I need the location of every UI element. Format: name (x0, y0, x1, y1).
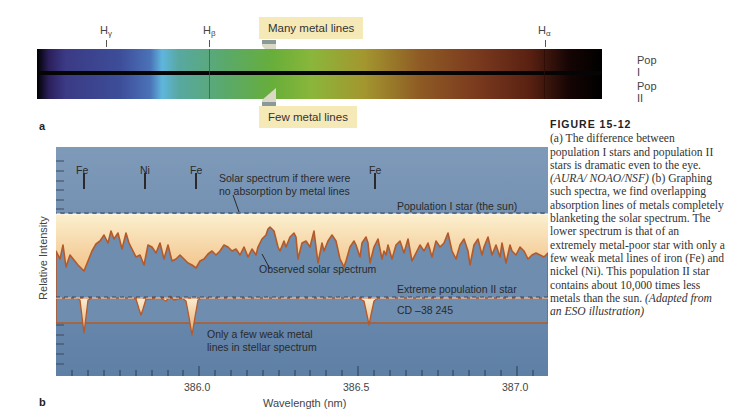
pop-i-label: Pop I (637, 54, 657, 78)
h-gamma-sub: γ (108, 29, 112, 38)
callout-bottom-pointer-icon (261, 86, 277, 108)
element-label-fe-2: Fe (190, 164, 202, 176)
callout-many-metal-lines: Many metal lines (259, 17, 363, 39)
x-tick-label-386-5: 386.5 (343, 381, 369, 393)
h-alpha-letter: H (538, 24, 546, 36)
caption-a-credit: (AURA/ NOAO/NSF) (550, 172, 649, 185)
annotation-few-lines-1: Only a few weak metal (207, 328, 317, 341)
element-label-ni: Ni (140, 164, 150, 176)
annotation-observed: Observed solar spectrum (259, 263, 376, 276)
annotation-pop2-id: CD –38 245 (397, 304, 453, 317)
panel-b-letter: b (39, 396, 46, 408)
annotation-continuum: Solar spectrum if there were no absorpti… (219, 172, 350, 197)
annotation-few-lines: Only a few weak metal lines in stellar s… (207, 328, 317, 353)
x-axis-ticks (72, 366, 533, 376)
caption-a-text: (a) The difference between population I … (550, 132, 713, 172)
panel-a-letter: a (39, 120, 45, 132)
element-label-fe-3: Fe (369, 164, 381, 176)
h-alpha-tick (545, 40, 546, 47)
x-tick-label-386-0: 386.0 (184, 381, 210, 393)
x-tick-label-387-0: 387.0 (502, 381, 528, 393)
h-beta-sub: β (211, 29, 216, 38)
caption-b-text: (b) Graphing such spectra, we find overl… (550, 172, 725, 305)
continuum-leader (233, 195, 239, 212)
annotation-continuum-line1: Solar spectrum if there were (219, 172, 350, 185)
y-axis-title: Relative Intensity (37, 203, 49, 313)
annotation-continuum-line2: no absorption by metal lines (219, 185, 350, 198)
h-gamma-letter: H (100, 24, 108, 36)
h-beta-letter: H (203, 24, 211, 36)
h-beta-tick (209, 40, 210, 47)
annotation-few-lines-2: lines in stellar spectrum (207, 341, 317, 354)
spectrum-strip-red (272, 49, 602, 99)
figure-caption: FIGURE 15-12 (a) The difference between … (550, 118, 725, 318)
x-axis-title: Wavelength (nm) (263, 397, 346, 409)
callout-few-metal-lines: Few metal lines (259, 106, 357, 128)
annotation-pop1: Population I star (the sun) (397, 200, 517, 213)
figure-number: FIGURE 15-12 (550, 118, 725, 131)
h-beta-label: Hβ (203, 24, 216, 38)
spectrum-strip (37, 49, 273, 99)
h-gamma-label: Hγ (100, 24, 112, 38)
pop-ii-label: Pop II (637, 80, 657, 104)
h-alpha-label: Hα (538, 24, 551, 38)
h-alpha-sub: α (546, 29, 551, 38)
h-gamma-tick (106, 40, 107, 47)
annotation-pop2: Extreme population II star (397, 283, 517, 296)
element-label-fe-1: Fe (76, 164, 88, 176)
